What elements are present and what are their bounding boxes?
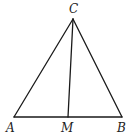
triangle-diagram: C A M B: [0, 0, 136, 138]
label-a: A: [5, 121, 15, 135]
segment-ac: [14, 19, 73, 117]
segment-cb: [73, 19, 122, 117]
label-m: M: [60, 121, 74, 135]
label-b: B: [116, 121, 126, 135]
segment-cm: [68, 19, 73, 117]
label-c: C: [69, 2, 78, 16]
